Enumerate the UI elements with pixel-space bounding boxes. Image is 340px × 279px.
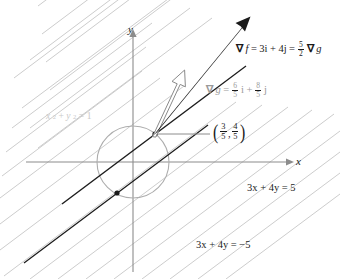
circle-eq-equals: = bbox=[79, 112, 84, 122]
y-axis-label: y bbox=[128, 24, 133, 35]
gradient-f-equals-2: = bbox=[289, 44, 295, 55]
lagrange-multiplier-figure: y x x2 + y2 = 1 ∇f = 3i + 4j = 5 2 ∇g bbox=[0, 0, 340, 279]
gradient-f-term-j: 4j bbox=[278, 44, 286, 55]
fraction-numerator: 6 bbox=[232, 82, 238, 90]
open-paren: ( bbox=[213, 123, 218, 141]
coordinate-y-fraction: 4 5 bbox=[232, 122, 238, 141]
gradient-g-function: g bbox=[216, 85, 221, 96]
fraction-numerator: 8 bbox=[255, 82, 261, 90]
level-line bbox=[0, 86, 184, 224]
gradient-f-term-i: 3i bbox=[259, 44, 267, 55]
fraction-denominator: 2 bbox=[298, 49, 304, 58]
gradient-f-equals-1: = bbox=[251, 44, 257, 55]
coordinate-comma: , bbox=[228, 129, 231, 140]
circle-eq-y: y bbox=[66, 112, 70, 122]
upper-tangent-line-label: 3x + 4y = 5 bbox=[247, 183, 296, 194]
gradient-f-vector bbox=[153, 17, 250, 136]
circle-eq-x: x bbox=[46, 112, 50, 122]
circle-eq-plus: + bbox=[58, 112, 63, 122]
fraction-numerator: 4 bbox=[232, 122, 238, 131]
x-axis-label: x bbox=[296, 156, 301, 167]
gradient-f-plus: + bbox=[270, 44, 276, 55]
nabla-icon: ∇ bbox=[307, 44, 314, 55]
close-paren: ) bbox=[240, 123, 245, 141]
level-line bbox=[226, 194, 340, 279]
gradient-f-function: f bbox=[246, 44, 249, 55]
lower-tangent-point bbox=[114, 190, 119, 195]
level-line bbox=[14, 0, 202, 78]
level-line bbox=[6, 47, 146, 152]
fraction-denominator: 5 bbox=[232, 131, 238, 141]
gradient-f-coefficient-fraction: 5 2 bbox=[298, 41, 304, 58]
gradient-f-label: ∇f = 3i + 4j = 5 2 ∇g bbox=[236, 41, 322, 58]
nabla-icon: ∇ bbox=[236, 44, 243, 55]
fraction-denominator: 5 bbox=[232, 90, 238, 99]
gradient-g-plus: + bbox=[246, 85, 252, 96]
circle-equation-label: x2 + y2 = 1 bbox=[46, 112, 91, 122]
gradient-f-arrowhead bbox=[236, 17, 251, 32]
coordinate-axes bbox=[26, 37, 286, 272]
fraction-numerator: 5 bbox=[298, 41, 304, 49]
level-line bbox=[170, 152, 340, 279]
fraction-numerator: 3 bbox=[220, 122, 226, 131]
level-line bbox=[22, 0, 168, 108]
lower-tangent-line-label: 3x + 4y = −5 bbox=[196, 240, 251, 251]
gradient-g-unit-i: i bbox=[241, 85, 244, 96]
level-line bbox=[38, 18, 212, 148]
coordinate-x-fraction: 3 5 bbox=[220, 122, 226, 141]
gradient-g-i-fraction: 6 5 bbox=[232, 82, 238, 99]
gradient-f-function-g: g bbox=[316, 44, 321, 55]
level-line bbox=[142, 131, 340, 279]
nabla-icon: ∇ bbox=[206, 85, 213, 96]
gradient-g-unit-j: j bbox=[264, 85, 267, 96]
gradient-f-arrow-shaft bbox=[153, 25, 245, 136]
fraction-denominator: 5 bbox=[220, 131, 226, 141]
circle-eq-x-exponent: 2 bbox=[53, 114, 56, 121]
circle-eq-y-exponent: 2 bbox=[73, 114, 76, 121]
circle-eq-one: 1 bbox=[87, 112, 92, 122]
gradient-g-equals: = bbox=[223, 85, 229, 96]
x-axis-arrowhead bbox=[286, 158, 294, 165]
fraction-denominator: 5 bbox=[255, 90, 261, 99]
level-line bbox=[30, 0, 214, 60]
level-line bbox=[86, 110, 312, 279]
gradient-g-j-fraction: 8 5 bbox=[255, 82, 261, 99]
tangent-point-coordinate-label: ( 3 5 , 4 5 ) bbox=[212, 122, 247, 142]
gradient-g-label: ∇g = 6 5 i + 8 5 j bbox=[206, 82, 267, 99]
